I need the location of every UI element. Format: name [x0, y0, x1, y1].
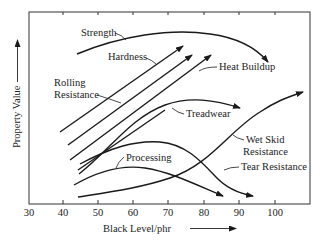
leader-processing [116, 157, 124, 168]
property-vs-black-level-chart: 30 40 50 60 70 80 90 100 Black Level/phr… [0, 0, 321, 244]
x-tick: 50 [93, 207, 104, 218]
x-tick: 30 [24, 207, 35, 218]
bottom-ticks [63, 200, 275, 204]
label-strength: Strength [81, 27, 117, 38]
label-wet-skid-1: Wet Skid [246, 134, 285, 145]
x-tick: 80 [199, 207, 210, 218]
leader-tear-resistance [224, 167, 239, 170]
label-wet-skid-2: Resistance [243, 146, 288, 157]
y-axis-title: Property Value [11, 85, 22, 148]
label-heat-buildup: Heat Buildup [219, 61, 275, 72]
label-processing: Processing [126, 152, 172, 163]
label-tear-resistance: Tear Resistance [241, 161, 307, 172]
leader-heat-buildup [199, 67, 217, 71]
label-rolling-2: Resistance [54, 89, 99, 100]
label-hardness: Hardness [108, 51, 147, 62]
label-rolling-1: Rolling [54, 77, 86, 88]
leader-treadwear [172, 108, 184, 114]
leader-hardness [146, 58, 156, 64]
curve-hardness [68, 55, 192, 145]
x-tick: 90 [234, 207, 245, 218]
x-tick: 40 [58, 207, 69, 218]
curve-processing [74, 167, 223, 196]
label-treadwear: Treadwear [186, 108, 231, 119]
leader-wet-skid [233, 135, 244, 140]
x-axis-title: Black Level/phr [103, 223, 171, 234]
x-tick: 70 [163, 207, 174, 218]
plot-frame [29, 12, 310, 204]
leader-rolling-resistance [97, 95, 121, 103]
x-tick-labels: 30 40 50 60 70 80 90 100 [24, 207, 283, 218]
x-tick: 100 [267, 207, 283, 218]
x-tick: 60 [128, 207, 139, 218]
